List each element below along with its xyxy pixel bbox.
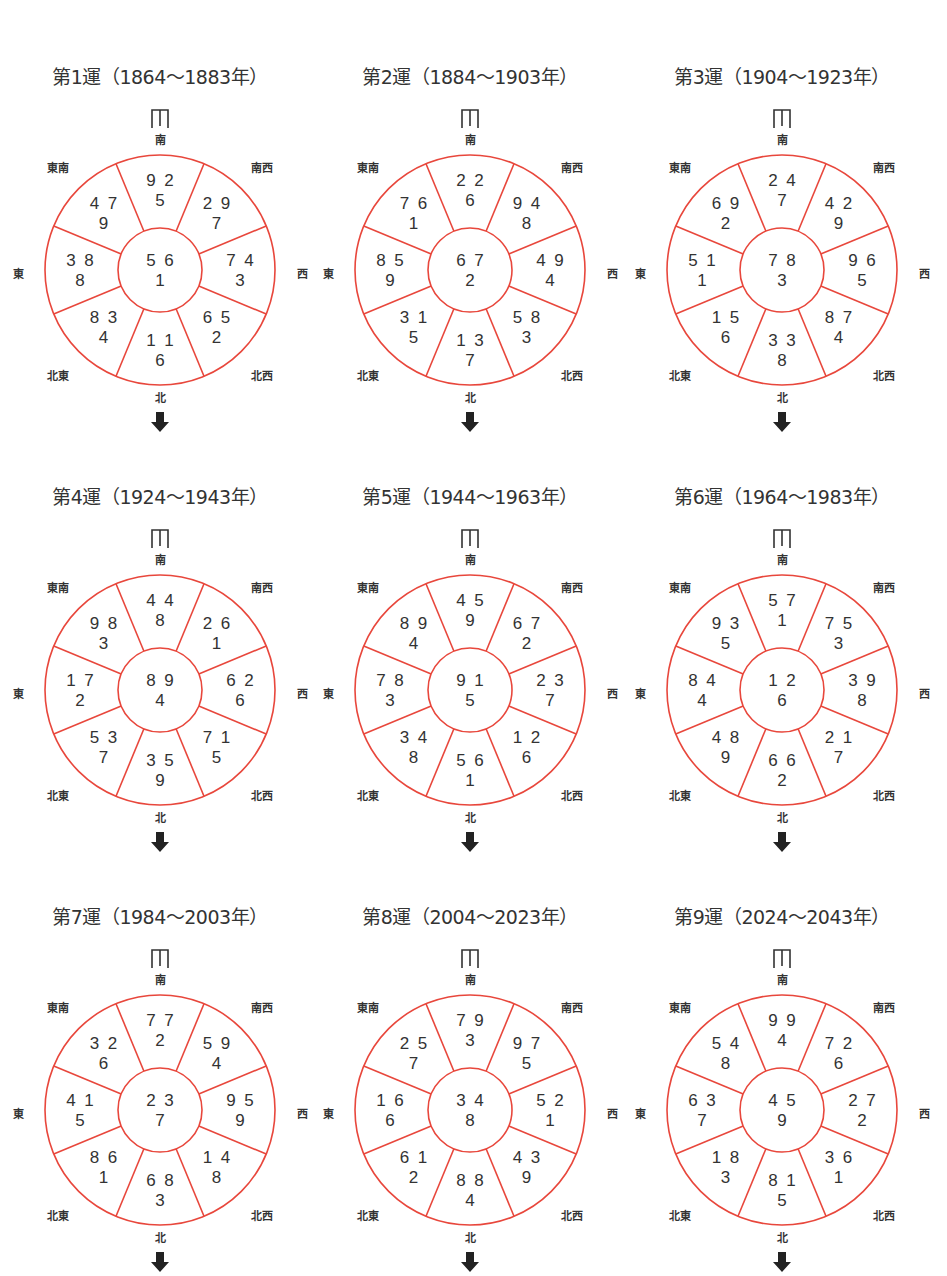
water-star: 5 [843,614,852,633]
water-star: 7 [164,1011,173,1030]
flying-star-diagram: 459南672南西237西126北西561北348北東783東894東南915 [320,510,620,860]
sector-south: 994 [768,1011,795,1050]
sector-southeast: 257 [400,1034,427,1073]
center-circle [740,1068,824,1152]
sector-east: 859 [376,251,403,290]
base-star: 2 [777,771,786,790]
water-star: 7 [531,614,540,633]
mountain-star: 5 [768,591,777,610]
chart-panel-4: 第4運（1924～1943年）448南261南西626西715北西359北537… [10,482,310,862]
center-circle [428,228,512,312]
sector-west: 521 [536,1091,563,1130]
water-star: 3 [108,308,117,327]
direction-label-northwest: 北西 [561,369,583,383]
base-star: 7 [155,1111,164,1130]
water-star: 9 [474,1011,483,1030]
base-star: 1 [545,1111,554,1130]
direction-label-east: 東 [323,267,335,281]
base-star: 5 [409,328,418,347]
base-star: 9 [777,1111,786,1130]
water-star: 4 [418,728,427,747]
mountain-star: 5 [712,1034,721,1053]
water-star: 2 [164,171,173,190]
mountain-star: 5 [203,1034,212,1053]
base-star: 6 [721,328,730,347]
chart-title: 第8運（2004～2023年） [320,902,620,929]
direction-label-southwest: 南西 [251,161,273,175]
mountain-star: 4 [712,728,721,747]
sector-south: 772 [146,1011,173,1050]
water-star: 2 [531,728,540,747]
water-star: 4 [474,1091,483,1110]
mountain-star: 3 [848,671,857,690]
mountain-star: 5 [536,1091,545,1110]
direction-label-northwest: 北西 [251,1209,273,1223]
base-star: 2 [212,328,221,347]
base-star: 4 [155,691,164,710]
direction-label-southwest: 南西 [561,581,583,595]
mountain-star: 9 [768,1011,777,1030]
sector-southeast: 894 [400,614,427,653]
sector-southwest: 261 [203,614,230,653]
mountain-star: 9 [146,171,155,190]
mountain-star: 1 [146,331,155,350]
mountain-star: 3 [456,1091,465,1110]
direction-label-west: 西 [607,268,618,281]
direction-label-northeast: 北東 [47,1209,70,1223]
base-star: 4 [99,328,108,347]
door-icon [152,110,168,128]
center-circle [118,648,202,732]
mountain-star: 5 [513,308,522,327]
base-star: 4 [545,271,554,290]
sector-northeast: 861 [90,1148,117,1187]
direction-label-south: 南 [155,553,166,567]
water-star: 5 [244,1091,253,1110]
water-star: 1 [786,1171,795,1190]
mountain-star: 2 [536,671,545,690]
direction-label-north: 北 [465,391,476,405]
sector-northwest: 715 [203,728,230,767]
base-star: 1 [409,214,418,233]
water-star: 2 [108,1034,117,1053]
mountain-star: 9 [848,251,857,270]
mountain-star: 9 [226,1091,235,1110]
mountain-star: 7 [825,614,834,633]
sector-southwest: 429 [825,194,852,233]
base-star: 5 [721,634,730,653]
water-star: 1 [474,671,483,690]
sector-north: 884 [456,1171,483,1210]
base-star: 2 [75,691,84,710]
water-star: 9 [866,671,875,690]
water-star: 1 [418,308,427,327]
sector-southeast: 692 [712,194,739,233]
base-star: 2 [857,1111,866,1130]
mountain-star: 2 [456,171,465,190]
sector-south: 793 [456,1011,483,1050]
base-star: 3 [777,271,786,290]
mountain-star: 2 [146,1091,155,1110]
water-star: 3 [730,614,739,633]
water-star: 9 [554,251,563,270]
mountain-star: 6 [146,1171,155,1190]
sector-east: 844 [688,671,715,710]
mountain-star: 4 [90,194,99,213]
base-star: 5 [777,1191,786,1210]
direction-label-south: 南 [777,973,788,987]
sector-southeast: 983 [90,614,117,653]
mountain-star: 5 [146,251,155,270]
base-star: 8 [409,748,418,767]
water-star: 8 [108,614,117,633]
mountain-star: 9 [513,1034,522,1053]
direction-label-south: 南 [155,133,166,147]
mountain-star: 4 [66,1091,75,1110]
sector-west: 959 [226,1091,253,1130]
sector-west: 626 [226,671,253,710]
water-star: 4 [244,251,253,270]
direction-label-southeast: 東南 [669,161,691,175]
sector-north: 137 [456,331,483,370]
base-star: 7 [409,1054,418,1073]
chart-title: 第6運（1964～1983年） [632,482,932,509]
sector-northwest: 126 [513,728,540,767]
direction-label-east: 東 [635,1107,647,1121]
direction-label-southeast: 東南 [669,1001,691,1015]
